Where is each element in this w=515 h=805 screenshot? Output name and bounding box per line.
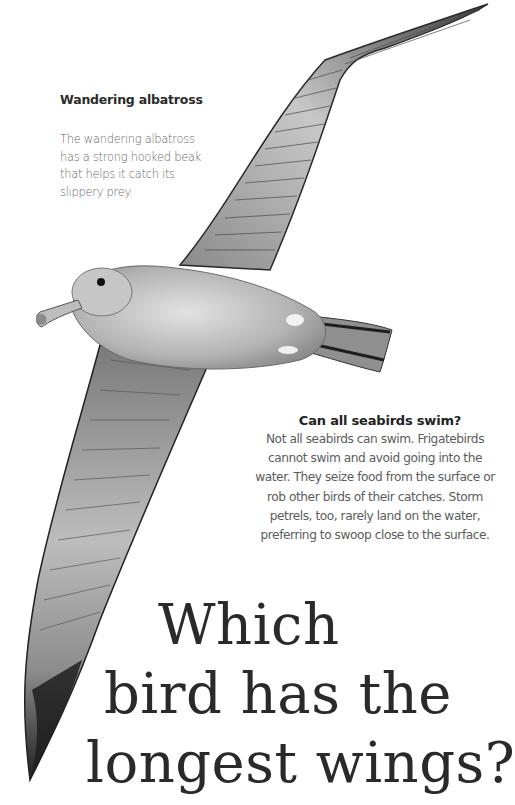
- qa-body: Not all seabirds can swim. Frigatebirds …: [250, 430, 500, 545]
- caption-title: Wandering albatross: [60, 92, 203, 107]
- headline-line-2: bird has the: [104, 659, 452, 728]
- headline-line-1: Which: [158, 590, 339, 659]
- qa-heading: Can all seabirds swim?: [262, 413, 498, 428]
- caption-body: The wandering albatross has a strong hoo…: [60, 131, 210, 201]
- headline-line-3: longest wings?: [86, 728, 515, 797]
- upper-wing: [180, 4, 488, 270]
